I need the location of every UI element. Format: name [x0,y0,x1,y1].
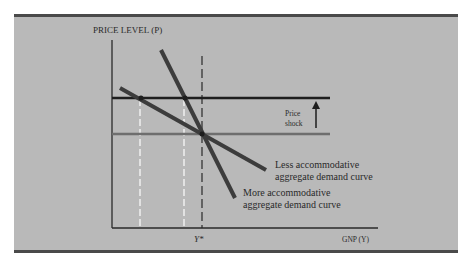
less-label-1: Less accommodative [275,159,360,170]
more-label-1: More accommodative [243,187,331,198]
intersection-more [183,96,188,101]
more-accommodative-curve [161,50,235,198]
shock-label-1: Price [285,109,301,118]
x-tick-label: Y* [194,234,204,244]
diagram: PRICE LEVEL (P) Price shock Less accommo… [0,0,471,264]
more-label-2: aggregate demand curve [243,199,341,210]
intersection-initial [200,132,205,137]
y-axis-label: PRICE LEVEL (P) [93,25,162,35]
intersection-less [139,96,144,101]
shock-label-2: shock [285,119,303,128]
arrow-head-icon [312,101,320,109]
less-label-2: aggregate demand curve [275,171,373,182]
x-axis-label: GNP (Y) [342,235,370,244]
